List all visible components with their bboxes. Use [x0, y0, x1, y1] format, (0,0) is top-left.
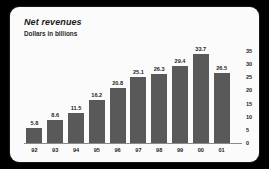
y-tick-35: 35 [246, 48, 259, 54]
x-tick-01: 01 [208, 147, 236, 153]
bar-rect [26, 128, 42, 143]
chart-title-block: Net revenues Dollars in billions [24, 17, 82, 38]
page-title: Net revenues [24, 17, 82, 28]
bar-value-label: 20.8 [104, 80, 132, 86]
bar-value-label: 29.4 [166, 58, 194, 64]
bar-rect [110, 88, 126, 143]
bar-rect [47, 120, 63, 143]
bar-value-label: 5.8 [20, 120, 48, 126]
y-tick-5: 5 [246, 127, 259, 133]
plot-area: 5.88.611.516.220.825.126.329.433.726.5 [24, 51, 232, 143]
bar-value-label: 16.2 [83, 92, 111, 98]
bar-value-label: 11.5 [62, 105, 90, 111]
x-axis-line [24, 143, 242, 144]
bar-value-label: 8.6 [41, 112, 69, 118]
chart-panel: Net revenues Dollars in billions 5.88.61… [10, 7, 259, 162]
y-tick-25: 25 [246, 74, 259, 80]
bar-value-label: 26.3 [145, 66, 173, 72]
y-tick-15: 15 [246, 101, 259, 107]
bar-rect [151, 74, 167, 143]
bar-rect [130, 77, 146, 143]
bar-value-label: 26.5 [208, 65, 236, 71]
y-tick-0: 0 [246, 140, 259, 146]
bar-rect [172, 66, 188, 143]
y-tick-20: 20 [246, 87, 259, 93]
bar-value-label: 33.7 [187, 46, 215, 52]
bar-rect [89, 100, 105, 143]
chart-subtitle: Dollars in billions [24, 29, 82, 38]
bar-rect [214, 73, 230, 143]
y-tick-10: 10 [246, 114, 259, 120]
y-tick-30: 30 [246, 61, 259, 67]
bar-rect [68, 113, 84, 143]
bar-rect [193, 54, 209, 143]
